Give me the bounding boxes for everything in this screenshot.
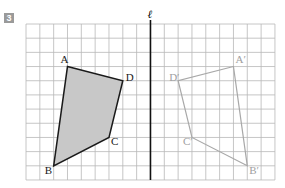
vertex-label-d-prime: D′ <box>169 71 179 83</box>
vertex-label-c-prime: C′ <box>183 135 193 147</box>
quadrilateral-abcd <box>54 67 123 166</box>
vertex-label-d: D <box>126 71 134 83</box>
vertex-label-b: B <box>45 164 52 176</box>
vertex-label-b-prime: B′ <box>249 164 259 176</box>
vertex-label-a: A <box>60 53 68 65</box>
reflection-diagram: ℓ ADCBA′D′C′B′ <box>0 0 285 188</box>
quadrilateral-reflected <box>178 67 247 166</box>
vertex-label-a-prime: A′ <box>235 53 245 65</box>
axis-label: ℓ <box>147 8 152 20</box>
vertex-label-c: C <box>111 135 118 147</box>
